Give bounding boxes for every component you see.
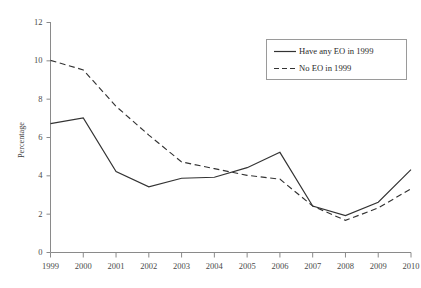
x-tick-label-2003: 2003 (173, 261, 190, 271)
x-tick-label-2009: 2009 (370, 261, 387, 271)
x-tick-label-1999: 1999 (42, 261, 59, 271)
x-tick-label-2004: 2004 (206, 261, 224, 271)
y-tick-label-8: 8 (38, 94, 42, 104)
x-axis-tick-labels: 1999200020012002200320042005200620072008… (42, 261, 420, 271)
x-tick-label-2001: 2001 (108, 261, 125, 271)
y-tick-label-12: 12 (34, 17, 43, 27)
x-tick-label-2000: 2000 (75, 261, 92, 271)
chart-container: Percentage 024681012 1999200020012002200… (0, 0, 421, 288)
x-axis-ticks (51, 253, 412, 258)
x-tick-label-2005: 2005 (239, 261, 256, 271)
x-tick-label-2002: 2002 (140, 261, 157, 271)
x-tick-label-2008: 2008 (337, 261, 354, 271)
y-tick-label-6: 6 (38, 132, 42, 142)
y-axis-tick-labels: 024681012 (34, 17, 43, 257)
x-tick-label-2010: 2010 (403, 261, 420, 271)
y-axis-ticks (47, 23, 51, 253)
series-line-have-any-eo (51, 118, 412, 216)
x-tick-label-2006: 2006 (271, 261, 288, 271)
y-axis-title: Percentage (17, 122, 26, 158)
y-tick-label-0: 0 (38, 247, 42, 257)
y-tick-label-4: 4 (38, 170, 43, 180)
legend-label-1: No EO in 1999 (299, 63, 351, 73)
chart-legend: Have any EO in 1999 No EO in 1999 (267, 40, 407, 80)
y-tick-label-10: 10 (34, 55, 43, 65)
legend-label-0: Have any EO in 1999 (299, 46, 373, 56)
series-line-no-eo (51, 60, 412, 220)
line-chart: Percentage 024681012 1999200020012002200… (0, 0, 421, 288)
y-tick-label-2: 2 (38, 209, 42, 219)
x-tick-label-2007: 2007 (304, 261, 321, 271)
